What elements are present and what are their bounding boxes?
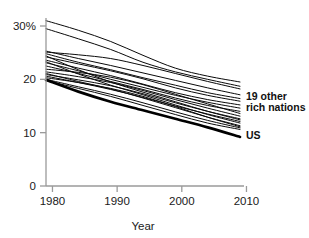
x-tick-label: 1990 bbox=[104, 195, 130, 207]
y-tick-label: 30% bbox=[13, 20, 36, 32]
x-tick-label: 2010 bbox=[234, 195, 260, 207]
series-annotations: 19 otherrich nationsUS bbox=[246, 90, 306, 140]
x-axis-ticks: 1980199020002010 bbox=[40, 186, 260, 207]
series-line-rich-nation-13 bbox=[46, 76, 240, 121]
y-tick-label: 0 bbox=[30, 180, 36, 192]
x-tick-label: 2000 bbox=[169, 195, 195, 207]
x-tick-label: 1980 bbox=[40, 195, 66, 207]
y-tick-label: 10 bbox=[23, 127, 36, 139]
series-annotation: rich nations bbox=[246, 101, 306, 113]
series-line-rich-nation-18 bbox=[46, 79, 240, 128]
y-axis-ticks: 0102030% bbox=[13, 20, 46, 192]
series-annotation: US bbox=[246, 129, 261, 141]
series-line-rich-nation-8 bbox=[46, 63, 240, 108]
y-tick-label: 20 bbox=[23, 73, 36, 85]
chart-canvas: 0102030% 1980199020002010 19 otherrich n… bbox=[0, 0, 309, 238]
axis-layer bbox=[46, 18, 244, 186]
x-axis-title: Year bbox=[131, 220, 154, 232]
line-chart: 0102030% 1980199020002010 19 otherrich n… bbox=[0, 0, 309, 238]
series-layer bbox=[46, 21, 240, 137]
